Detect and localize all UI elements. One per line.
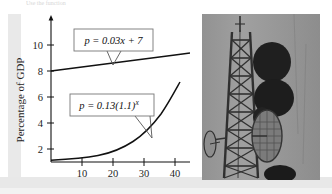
y-axis-tick-labels: 2 4 6 8 10 xyxy=(33,40,44,155)
exponential-equation-exponent: x xyxy=(134,98,139,107)
linear-equation-callout: p = 0.03x + 7 xyxy=(74,29,153,51)
photo-grain-overlay xyxy=(202,14,320,180)
x-axis-tick-labels: 10 20 30 40 xyxy=(77,168,181,179)
x-tick-label-40: 40 xyxy=(170,168,181,179)
exponential-equation-text: p = 0.13(1.1)x xyxy=(78,98,139,112)
scan-top-partial-text: Use the function xyxy=(26,0,176,7)
linear-equation-text: p = 0.03x + 7 xyxy=(83,35,143,46)
series-linear-line xyxy=(51,53,190,71)
x-tick-label-30: 30 xyxy=(139,168,150,179)
exponential-equation-base: p = 0.13(1.1) xyxy=(78,100,136,112)
telecom-tower-photo-svg xyxy=(202,14,320,180)
telecom-tower-photo xyxy=(202,14,320,180)
exponential-equation-callout: p = 0.13(1.1)x xyxy=(70,94,154,116)
x-tick-label-20: 20 xyxy=(108,168,119,179)
chart-svg: 2 4 6 8 10 10 20 30 40 Percentage o xyxy=(0,8,196,180)
x-tick-label-10: 10 xyxy=(77,168,88,179)
y-tick-label-8: 8 xyxy=(38,66,43,77)
y-tick-label-2: 2 xyxy=(38,144,43,155)
y-axis-arrowhead xyxy=(49,15,54,21)
y-axis-title: Percentage of GDP xyxy=(14,58,26,143)
y-tick-label-10: 10 xyxy=(33,40,44,51)
figure-page: Use the function 2 xyxy=(0,0,332,194)
scan-margin-band-bottom-lower xyxy=(0,188,332,194)
y-tick-label-6: 6 xyxy=(38,92,43,103)
gdp-percentage-chart: 2 4 6 8 10 10 20 30 40 Percentage o xyxy=(0,8,196,180)
y-tick-label-4: 4 xyxy=(38,118,44,129)
